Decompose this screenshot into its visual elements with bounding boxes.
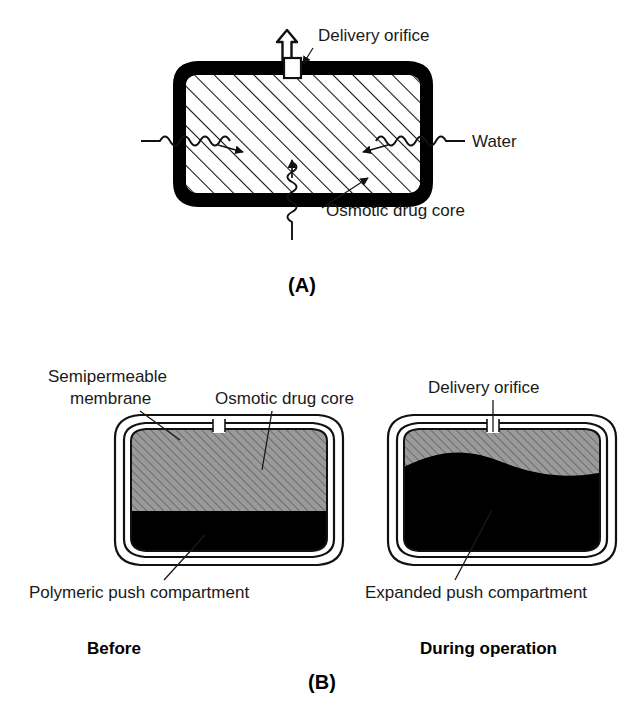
panel-a-capsule bbox=[173, 58, 433, 207]
left-delivery-orifice bbox=[213, 419, 225, 433]
right-core-region bbox=[398, 425, 613, 562]
panel-b-osmotic-drug-core-label: Osmotic drug core bbox=[215, 389, 354, 408]
delivery-orifice-opening bbox=[286, 60, 299, 77]
panel-b-tag: (B) bbox=[308, 671, 336, 693]
figure-root: Delivery orifice Water Osmotic drug core… bbox=[0, 0, 644, 711]
panel-b-left-capsule bbox=[115, 415, 343, 565]
osmotic-pump-figure: Delivery orifice Water Osmotic drug core… bbox=[0, 0, 644, 711]
panel-a-osmotic-drug-core-label: Osmotic drug core bbox=[326, 201, 465, 220]
semipermeable-membrane-label-line2: membrane bbox=[70, 389, 151, 408]
panel-a-tag: (A) bbox=[288, 274, 316, 296]
polymeric-push-compartment-label: Polymeric push compartment bbox=[29, 583, 249, 602]
panel-b-delivery-orifice-label: Delivery orifice bbox=[428, 378, 539, 397]
panel-b-right-capsule bbox=[388, 415, 616, 565]
caption-during-operation: During operation bbox=[420, 639, 557, 658]
panel-a-water-label: Water bbox=[472, 132, 517, 151]
panel-a-delivery-orifice-label: Delivery orifice bbox=[318, 26, 429, 45]
left-core-region bbox=[125, 425, 340, 560]
caption-before: Before bbox=[87, 639, 141, 658]
osmotic-drug-core-fill bbox=[186, 75, 420, 193]
expanded-push-compartment-label: Expanded push compartment bbox=[365, 583, 587, 602]
semipermeable-membrane-label-line1: Semipermeable bbox=[48, 367, 167, 386]
